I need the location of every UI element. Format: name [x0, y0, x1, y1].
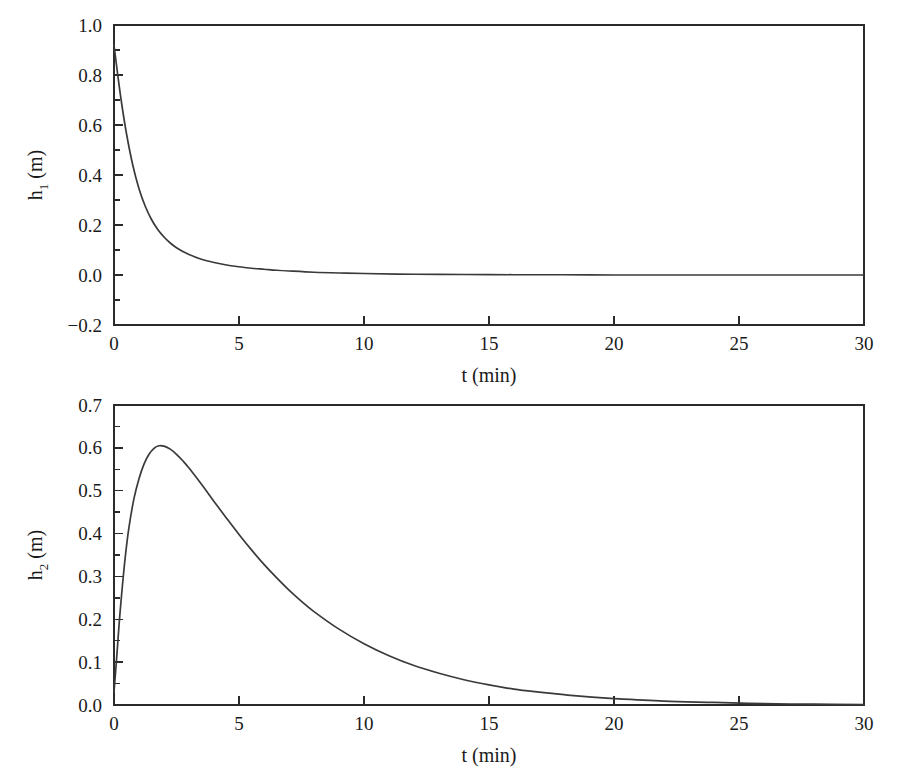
x-tick-label: 25 [730, 333, 749, 354]
y-axis-title-units-h1: (m) [24, 150, 47, 184]
x-axis-ticks-h1 [114, 316, 864, 325]
x-tick-label: 5 [234, 713, 244, 734]
y-axis-tick-labels-h1: −0.20.00.20.40.60.81.0 [68, 15, 103, 336]
y-tick-label: 0.4 [78, 165, 102, 186]
y-tick-label: 0.2 [78, 215, 102, 236]
y-tick-label: 0.8 [78, 65, 102, 86]
y-tick-label: 0.4 [78, 523, 102, 544]
y-axis-tick-labels-h2: 0.00.10.20.30.40.50.60.7 [78, 395, 102, 716]
chart-h2-svg: 0.00.10.20.30.40.50.60.7 051015202530 t … [0, 380, 903, 780]
y-axis-ticks-h1 [114, 25, 123, 325]
x-axis-tick-labels-h2: 051015202530 [109, 713, 873, 734]
x-tick-label: 20 [605, 333, 624, 354]
x-tick-label: 25 [730, 713, 749, 734]
y-tick-label: 0.3 [78, 566, 102, 587]
x-tick-label: 20 [605, 713, 624, 734]
plot-frame-h2 [114, 405, 864, 705]
x-tick-label: 5 [234, 333, 244, 354]
svg-text:h2 (m): h2 (m) [24, 530, 51, 580]
y-tick-label: 0.7 [78, 395, 102, 416]
x-tick-label: 15 [480, 333, 499, 354]
chart-panel-h2: 0.00.10.20.30.40.50.60.7 051015202530 t … [0, 380, 903, 780]
x-tick-label: 15 [480, 713, 499, 734]
y-tick-label: 0.2 [78, 609, 102, 630]
x-tick-label: 10 [355, 333, 374, 354]
y-axis-title-h1: h1 (m) [24, 150, 51, 200]
x-tick-label: 30 [855, 713, 874, 734]
figure-container: −0.20.00.20.40.60.81.0 051015202530 t (m… [0, 0, 903, 780]
x-tick-label: 0 [109, 333, 119, 354]
y-tick-label: 0.1 [78, 652, 102, 673]
y-axis-title-h2: h2 (m) [24, 530, 51, 580]
y-tick-label: −0.2 [68, 315, 102, 336]
x-tick-label: 0 [109, 713, 119, 734]
y-tick-label: 0.5 [78, 480, 102, 501]
chart-h1-svg: −0.20.00.20.40.60.81.0 051015202530 t (m… [0, 0, 903, 390]
y-axis-title-base-h1: h [24, 190, 46, 200]
x-tick-label: 10 [355, 713, 374, 734]
y-axis-title-base-h2: h [24, 570, 46, 580]
y-tick-label: 1.0 [78, 15, 102, 36]
y-tick-label: 0.6 [78, 115, 102, 136]
y-tick-label: 0.6 [78, 437, 102, 458]
page-bottom-edge [0, 772, 903, 780]
x-axis-tick-labels-h1: 051015202530 [109, 333, 873, 354]
y-axis-title-units-h2: (m) [24, 530, 47, 564]
chart-panel-h1: −0.20.00.20.40.60.81.0 051015202530 t (m… [0, 0, 903, 390]
data-curve-h2 [114, 446, 864, 705]
svg-text:h1 (m): h1 (m) [24, 150, 51, 200]
x-tick-label: 30 [855, 333, 874, 354]
y-tick-label: 0.0 [78, 265, 102, 286]
y-tick-label: 0.0 [78, 695, 102, 716]
x-axis-title-h2: t (min) [462, 744, 517, 767]
plot-frame-h1 [114, 25, 864, 325]
data-curve-h1 [114, 45, 864, 275]
